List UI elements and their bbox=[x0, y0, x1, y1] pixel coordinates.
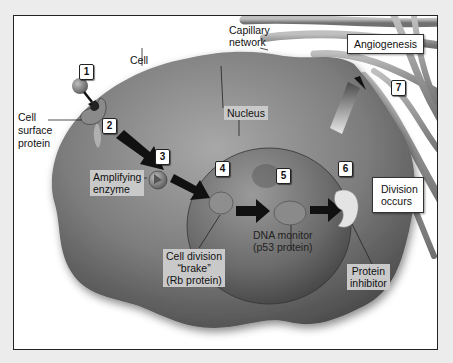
cell-division-brake-line2: “brake” bbox=[166, 262, 222, 274]
cell-surface-protein-line3: protein bbox=[18, 137, 52, 150]
amplifying-enzyme-line2: enzyme bbox=[93, 183, 141, 195]
step-badge-2: 2 bbox=[102, 118, 117, 134]
step-badge-5: 5 bbox=[276, 168, 291, 184]
cell-surface-protein-line1: Cell bbox=[18, 111, 52, 124]
division-occurs-label: Division occurs bbox=[372, 177, 424, 213]
division-occurs-line2: occurs bbox=[381, 195, 415, 207]
protein-inhibitor-line2: inhibitor bbox=[350, 277, 387, 289]
signal-molecule-icon bbox=[72, 78, 88, 94]
step-badge-7: 7 bbox=[391, 80, 406, 96]
diagram-frame: Capillary network Cell Cell surface prot… bbox=[13, 15, 438, 350]
dna-monitor-line2: (p53 protein) bbox=[253, 241, 313, 253]
cell-label: Cell bbox=[130, 54, 148, 66]
step-badge-1: 1 bbox=[79, 64, 94, 80]
rb-protein-icon bbox=[209, 192, 233, 214]
cell-surface-protein-line2: surface bbox=[18, 124, 52, 137]
amplifying-enzyme-label: Amplifying enzyme bbox=[90, 170, 144, 196]
step-badge-3: 3 bbox=[155, 149, 170, 165]
capillary-network-label-line2: network bbox=[229, 36, 270, 48]
cell-surface-protein-label: Cell surface protein bbox=[18, 111, 52, 150]
angiogenesis-label: Angiogenesis bbox=[347, 34, 424, 54]
capillary-network-label-line1: Capillary bbox=[229, 24, 270, 36]
protein-inhibitor-label: Protein inhibitor bbox=[347, 264, 390, 290]
p53-protein-icon bbox=[274, 201, 306, 225]
step-badge-6: 6 bbox=[338, 161, 353, 177]
cell-division-brake-label: Cell division “brake” (Rb protein) bbox=[163, 249, 225, 287]
capillary-network-label: Capillary network bbox=[229, 24, 270, 48]
cell-division-brake-line1: Cell division bbox=[166, 250, 222, 262]
step-badge-4: 4 bbox=[215, 161, 230, 177]
protein-inhibitor-line1: Protein bbox=[350, 265, 387, 277]
cell-division-brake-line3: (Rb protein) bbox=[166, 274, 222, 286]
dna-monitor-label: DNA monitor (p53 protein) bbox=[253, 229, 313, 253]
division-occurs-line1: Division bbox=[381, 183, 415, 195]
dna-monitor-line1: DNA monitor bbox=[253, 229, 313, 241]
nucleus-label: Nucleus bbox=[224, 106, 268, 120]
amplifying-enzyme-line1: Amplifying bbox=[93, 171, 141, 183]
